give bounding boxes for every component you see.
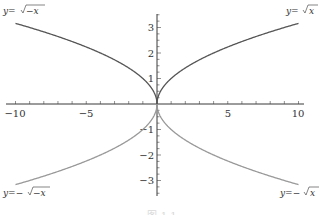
svg-text:y=: y= <box>285 6 299 16</box>
label-bottom-right: y=− x <box>279 187 319 198</box>
x-tick-label: −10 <box>4 108 25 119</box>
svg-text:x: x <box>309 6 314 16</box>
curve-sqrt-x <box>157 23 299 104</box>
curve-sqrt-neg-x <box>16 23 158 104</box>
y-tick-label: 3 <box>148 22 154 33</box>
x-tick-label: −5 <box>79 108 94 119</box>
svg-text:−x: −x <box>33 188 46 198</box>
x-tick-label: 10 <box>292 108 305 119</box>
label-bottom-left: y=− −x <box>2 187 50 198</box>
svg-text:y=: y= <box>2 6 16 16</box>
y-tick-label: 2 <box>148 48 154 59</box>
figure-caption: 图 1.1 <box>0 207 324 215</box>
label-top-right: y= x <box>285 5 318 16</box>
svg-text:x: x <box>310 188 315 198</box>
label-top-left: y= −x <box>2 5 45 16</box>
svg-text:−x: −x <box>26 6 39 16</box>
svg-text:y=−: y=− <box>279 188 300 198</box>
sqrt-function-plot: −10 −5 5 10 3 2 1 −1 −2 −3 y= −x y= x y=… <box>0 0 324 215</box>
y-tick-label: −2 <box>139 150 154 161</box>
y-tick-label: −3 <box>139 175 154 186</box>
svg-text:y=−: y=− <box>2 188 23 198</box>
x-tick-label: 5 <box>225 108 231 119</box>
y-tick-label: 1 <box>148 73 154 84</box>
